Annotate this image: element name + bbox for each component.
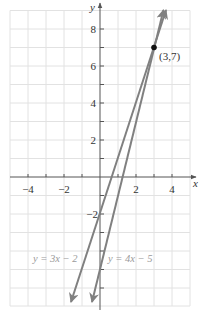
x-tick-label: 4 xyxy=(169,183,175,195)
equation-label-2: y = 4x − 5 xyxy=(107,253,153,264)
x-tick-label: 2 xyxy=(133,183,139,195)
x-tick-label: −4 xyxy=(22,183,34,195)
y-tick-label: 4 xyxy=(91,97,97,109)
y-axis-label: y xyxy=(89,1,95,13)
x-axis-label: x xyxy=(192,177,198,189)
y-ticks xyxy=(100,29,104,288)
line-chart: −4 −2 2 4 8 6 4 2 −2 x y (3,7) y = 3x − … xyxy=(0,0,202,314)
intersection-label: (3,7) xyxy=(159,50,180,63)
x-tick-label: −2 xyxy=(58,183,70,195)
intersection-point xyxy=(151,45,157,51)
y-tick-label: −2 xyxy=(86,208,98,220)
equation-label-1: y = 3x − 2 xyxy=(32,253,78,264)
y-tick-label: 8 xyxy=(91,23,97,35)
y-tick-label: 6 xyxy=(91,60,97,72)
y-tick-label: 2 xyxy=(91,134,97,146)
